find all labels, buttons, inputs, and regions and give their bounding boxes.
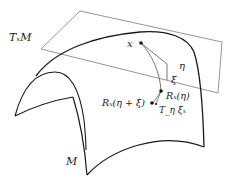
- diagram-svg: TₓM M x η ξ Rₓ(η) Rₓ(η + ξ) T_η ξₓ: [0, 0, 234, 187]
- label-retraction-eta-xi: Rₓ(η + ξ): [101, 97, 145, 108]
- label-manifold: M: [65, 155, 78, 168]
- label-xi: ξ: [171, 74, 177, 85]
- label-vector-transport: T_η ξₓ: [159, 105, 187, 116]
- point-x: [139, 41, 143, 45]
- manifold-left-inner-edge: [15, 97, 73, 116]
- point-transport-tip: [155, 103, 157, 105]
- label-eta: η: [179, 60, 185, 71]
- tangent-plane: [41, 11, 222, 93]
- manifold-bottom-edge: [87, 141, 204, 175]
- point-retraction-eta: [159, 89, 163, 93]
- label-tangent-space: TₓM: [9, 31, 32, 44]
- label-point-x: x: [127, 38, 133, 49]
- label-retraction-eta: Rₓ(η): [165, 90, 190, 101]
- manifold-diagram: TₓM M x η ξ Rₓ(η) Rₓ(η + ξ) T_η ξₓ: [0, 0, 234, 187]
- point-retraction-eta-xi: [150, 101, 154, 105]
